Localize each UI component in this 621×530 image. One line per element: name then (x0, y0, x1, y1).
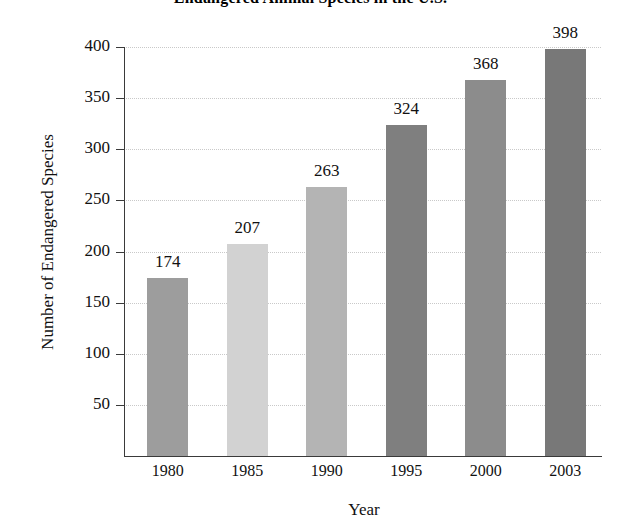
gridline (124, 47, 601, 48)
y-tick-mark (116, 149, 125, 150)
bar[interactable] (465, 80, 506, 456)
y-tick-mark (116, 303, 125, 304)
gridline (124, 354, 601, 355)
x-tick-label: 2003 (525, 462, 605, 480)
y-tick-label: 300 (50, 138, 110, 158)
y-tick-mark (116, 405, 125, 406)
y-tick-label: 150 (50, 292, 110, 312)
bar[interactable] (147, 278, 188, 456)
bar-value-label: 174 (133, 252, 203, 272)
x-tick-label: 1985 (207, 462, 287, 480)
plot-area: 174207263324368398 (124, 47, 601, 456)
y-tick-mark (116, 200, 125, 201)
gridline (124, 405, 601, 406)
gridline (124, 149, 601, 150)
y-tick-label: 350 (50, 87, 110, 107)
y-tick-mark (116, 354, 125, 355)
y-tick-label: 400 (50, 36, 110, 56)
gridline (124, 200, 601, 201)
gridline (124, 98, 601, 99)
x-tick-label: 1995 (366, 462, 446, 480)
bar-value-label: 324 (371, 99, 441, 119)
bar[interactable] (545, 49, 586, 456)
bar-value-label: 368 (451, 54, 521, 74)
x-axis-title: Year (124, 500, 604, 520)
y-tick-label: 100 (50, 343, 110, 363)
bar[interactable] (386, 125, 427, 456)
gridline (124, 303, 601, 304)
y-tick-mark (116, 98, 125, 99)
bar[interactable] (227, 244, 268, 456)
y-tick-label: 50 (50, 394, 110, 414)
chart-title: Endangered Animal Species in the U.S. (0, 0, 621, 7)
bar-value-label: 207 (212, 218, 282, 238)
y-tick-label: 200 (50, 241, 110, 261)
y-tick-mark (116, 252, 125, 253)
y-tick-label: 250 (50, 189, 110, 209)
x-tick-label: 1990 (287, 462, 367, 480)
x-tick-label: 2000 (446, 462, 526, 480)
chart-figure: Endangered Animal Species in the U.S. Nu… (0, 0, 621, 530)
x-tick-label: 1980 (128, 462, 208, 480)
y-tick-mark (116, 47, 125, 48)
bar[interactable] (306, 187, 347, 456)
bar-value-label: 398 (530, 23, 600, 43)
x-axis-line (124, 456, 602, 457)
bar-value-label: 263 (292, 161, 362, 181)
